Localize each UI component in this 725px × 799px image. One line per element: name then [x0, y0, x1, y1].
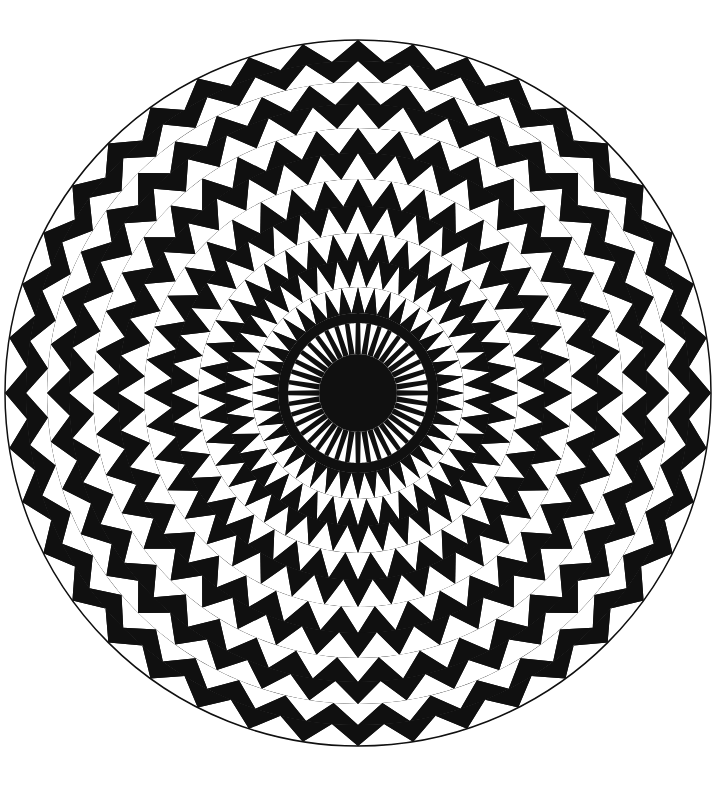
- artwork-page: [0, 0, 725, 799]
- radial-mandala-figure: [0, 0, 725, 799]
- mandala-group: [5, 40, 711, 746]
- center-disk: [319, 354, 397, 432]
